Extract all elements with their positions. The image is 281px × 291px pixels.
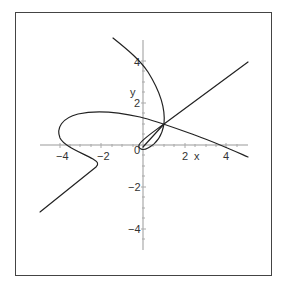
line — [143, 62, 248, 147]
x-axis-label: x — [194, 150, 200, 162]
x-tick-label: −4 — [56, 150, 69, 162]
x-tick-label: 2 — [182, 150, 188, 162]
plot-canvas: −4 −2 0 2 x 4 4 y 2 −2 −4 — [0, 0, 281, 291]
y-tick-label: 2 — [134, 97, 140, 109]
y-tick-label: 4 — [134, 56, 140, 68]
x-tick-label: 4 — [223, 150, 229, 162]
y-tick-label: −4 — [128, 223, 141, 235]
y-tick-label: −2 — [128, 181, 141, 193]
x-tick-label: −2 — [97, 150, 110, 162]
